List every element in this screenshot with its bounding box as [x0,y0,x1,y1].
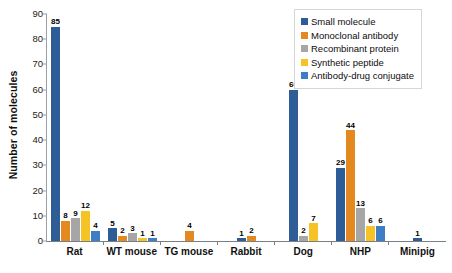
x-axis-group-separator [217,241,218,245]
bar[interactable]: 2 [118,236,127,241]
bar-value-label: 5 [110,220,114,228]
bar-chart: Number of molecules 0102030405060708090 … [0,0,452,273]
bar-value-label: 1 [239,230,243,238]
legend-item[interactable]: Antibody-drug conjugate [301,69,414,83]
y-axis-tick-label: 70 [7,60,43,70]
legend-item[interactable]: Recombinant protein [301,42,414,56]
bar-group-bars: 52311 [108,14,157,241]
x-axis-tick-label: Rat [46,246,103,257]
bar-group-bars: 8589124 [51,14,100,241]
bar-value-label: 13 [356,200,365,208]
bar[interactable]: 9 [71,218,80,241]
x-axis-tick-label: WT mouse [103,246,160,257]
x-axis-tick-label: TG mouse [160,246,217,257]
bar-slot: 5 [108,14,117,241]
bar[interactable]: 7 [309,223,318,241]
bar-value-label: 85 [51,18,60,26]
bar[interactable]: 1 [413,238,422,241]
x-axis-labels: RatWT mouseTG mouseRabbitDogNHPMinipig [46,246,446,257]
bar[interactable]: 4 [91,231,100,241]
bar-group: 8589124 [47,14,104,241]
bar-value-label: 1 [140,230,144,238]
x-axis-tick-label: Rabbit [217,246,274,257]
bar-value-label: 6 [378,217,382,225]
bar[interactable]: 6 [366,226,375,241]
y-axis-tick-label: 0 [7,236,43,246]
y-axis-tick-label: 10 [7,211,43,221]
bar-slot: 85 [51,14,60,241]
bar-slot: 12 [81,14,90,241]
bar-value-label: 8 [63,212,67,220]
legend-item-label: Antibody-drug conjugate [311,71,414,81]
y-axis-tick-label: 30 [7,161,43,171]
y-axis-tick-label: 90 [7,9,43,19]
bar-slot: 3 [128,14,137,241]
x-axis-group-separator [388,241,389,245]
legend-swatch-icon [301,45,308,52]
legend-swatch-icon [301,18,308,25]
bar-value-label: 44 [346,122,355,130]
legend-item[interactable]: Synthetic peptide [301,56,414,70]
bar-value-label: 4 [93,222,97,230]
bar[interactable]: 8 [61,221,70,241]
bar-slot: 1 [237,14,246,241]
x-axis-group-separator [103,241,104,245]
bar[interactable]: 3 [128,233,137,241]
x-axis-group-separator [331,241,332,245]
y-axis-tick-label: 40 [7,135,43,145]
bar[interactable]: 6 [376,226,385,241]
bar-value-label: 29 [336,159,345,167]
bar-value-label: 2 [120,227,124,235]
bar[interactable]: 60 [289,90,298,241]
bar[interactable]: 1 [148,238,157,241]
x-axis-tick-label: Minipig [389,246,446,257]
bar-value-label: 7 [311,215,315,223]
y-axis-tick-label: 80 [7,34,43,44]
bar-slot: 4 [91,14,100,241]
bar-slot: 2 [118,14,127,241]
bar[interactable]: 85 [51,27,60,241]
y-axis-tick-label: 60 [7,85,43,95]
bar-value-label: 2 [249,227,253,235]
bar-value-label: 4 [187,222,191,230]
bar[interactable]: 12 [81,211,90,241]
bar-value-label: 12 [81,202,90,210]
legend-item-label: Monoclonal antibody [311,31,398,41]
bar[interactable]: 2 [247,236,256,241]
bar-group: 52311 [104,14,161,241]
legend-item[interactable]: Small molecule [301,15,414,29]
bar-group: 12 [218,14,275,241]
legend-item-label: Synthetic peptide [311,58,384,68]
legend-swatch-icon [301,59,308,66]
bar-value-label: 9 [73,210,77,218]
bar-slot: 9 [71,14,80,241]
bar-slot: 1 [148,14,157,241]
bar[interactable]: 2 [299,236,308,241]
legend-item-label: Recombinant protein [311,44,399,54]
x-axis-group-separator [274,241,275,245]
x-axis-tick-label: Dog [275,246,332,257]
chart-legend: Small moleculeMonoclonal antibodyRecombi… [294,9,422,89]
bar-slot: 4 [185,14,194,241]
bar[interactable]: 1 [138,238,147,241]
legend-swatch-icon [301,72,308,79]
legend-swatch-icon [301,32,308,39]
bar-group-bars: 4 [185,14,194,241]
bar[interactable]: 4 [185,231,194,241]
bar[interactable]: 13 [356,208,365,241]
x-axis-tick-label: NHP [332,246,389,257]
bar-value-label: 3 [130,225,134,233]
bar-value-label: 2 [301,227,305,235]
legend-item[interactable]: Monoclonal antibody [301,29,414,43]
bar-group-bars: 12 [237,14,256,241]
bar-value-label: 1 [415,230,419,238]
bar[interactable]: 1 [237,238,246,241]
bar[interactable]: 5 [108,228,117,241]
legend-item-label: Small molecule [311,17,375,27]
bar[interactable]: 29 [336,168,345,241]
bar-slot: 2 [247,14,256,241]
bar-group: 4 [161,14,218,241]
bar-slot: 1 [138,14,147,241]
bar[interactable]: 44 [346,130,355,241]
bar-value-label: 1 [150,230,154,238]
